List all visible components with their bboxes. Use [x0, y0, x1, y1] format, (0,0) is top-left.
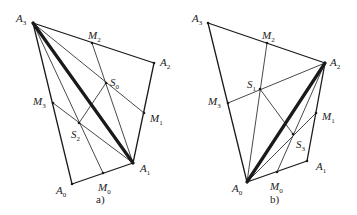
geometry-figure: A0A1A2A3M0M1M2M3S0S2a) A0A1A2A3M0M1M2M3S…: [0, 0, 357, 215]
point-a0: [71, 183, 74, 186]
point-m1: [143, 112, 146, 115]
label-a1: A1: [315, 160, 327, 175]
label-s2: S2: [71, 128, 81, 143]
label-a2: A2: [329, 56, 341, 71]
label-a3: A3: [191, 12, 203, 27]
point-m3: [52, 102, 55, 105]
point-a3: [32, 22, 35, 25]
point-a1: [306, 160, 309, 163]
point-m1: [315, 112, 318, 115]
caption-a: a): [96, 193, 105, 206]
label-a0: A0: [55, 184, 67, 199]
point-s2: [78, 122, 81, 125]
label-a3: A3: [15, 12, 27, 27]
point-s3: [292, 133, 295, 136]
segment-a2-m0: [277, 63, 325, 172]
point-s0: [105, 82, 108, 85]
segment-a3-a1: [33, 23, 133, 163]
label-m3: M3: [32, 95, 46, 110]
caption-b: b): [270, 193, 280, 206]
label-s3: S3: [296, 138, 306, 153]
point-a2: [324, 62, 327, 65]
segment-m1-a0: [247, 113, 316, 182]
label-a2: A2: [159, 56, 171, 71]
label-m3: M3: [207, 95, 221, 110]
panel-a-quadrilateral-diagram: A0A1A2A3M0M1M2M3S0S2a): [15, 12, 171, 206]
label-s1: S1: [247, 78, 257, 93]
point-s1: [259, 88, 262, 91]
point-m2: [91, 42, 94, 45]
label-s0: S0: [110, 76, 120, 91]
label-m1: M1: [149, 112, 163, 127]
segment-m2-a0: [247, 43, 267, 182]
point-m3: [227, 102, 230, 105]
point-a2: [153, 62, 156, 65]
point-m2: [266, 42, 269, 45]
point-a0: [246, 181, 249, 184]
label-a0: A0: [231, 182, 243, 197]
point-a1: [132, 162, 135, 165]
segment-m2-a1: [92, 43, 133, 163]
segment-s1-s3: [260, 89, 293, 134]
label-m1: M1: [321, 110, 335, 125]
point-m0: [276, 171, 279, 174]
point-m0: [102, 172, 105, 175]
point-a3: [207, 22, 210, 25]
label-a1: A1: [139, 162, 151, 177]
panel-b-quadrilateral-diagram: A0A1A2A3M0M1M2M3S1S3b): [191, 12, 341, 206]
segment-a0-a2: [247, 63, 325, 182]
